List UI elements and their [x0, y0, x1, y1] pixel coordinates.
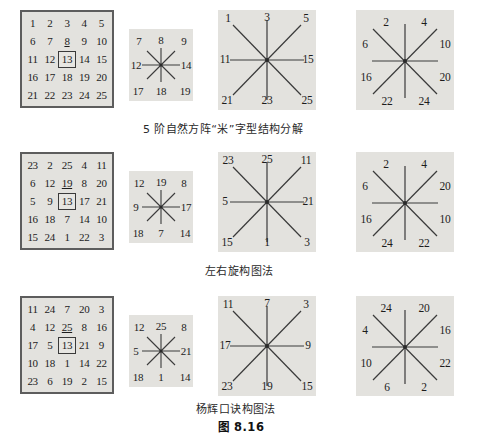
star-label-s: 18 — [156, 86, 167, 97]
square-cell: 20 — [93, 175, 110, 193]
star-diagram-right-rotate: 2 4 6 20 16 10 24 22 — [356, 152, 454, 252]
square-cell: 24 — [76, 86, 93, 104]
star-label-s-left: 22 — [381, 96, 392, 108]
star-label-nw: 1 — [225, 13, 231, 25]
star-label-e: 14 — [181, 60, 192, 71]
square-cell: 4 — [76, 157, 93, 175]
star-label-sw: 21 — [221, 95, 232, 107]
star-label-e: 16 — [439, 325, 450, 337]
star-label-ne: 8 — [181, 178, 186, 189]
star-diagram-small-yanghui: 12 25 8 5 21 18 1 14 — [129, 315, 193, 387]
square-cell: 4 — [76, 15, 93, 33]
square-cell: 8 — [76, 319, 93, 337]
star-label-ne: 9 — [181, 36, 186, 47]
square-cell: 10 — [93, 210, 110, 228]
star-label-se: 14 — [180, 228, 191, 239]
square-cell: 10 — [93, 33, 110, 51]
square-cell: 7 — [41, 33, 58, 51]
star-label-ne: 4 — [421, 17, 427, 29]
square-cell-center-highlight: 13 — [58, 193, 75, 211]
square-cell: 6 — [24, 33, 41, 51]
square-cell-underlined: 8 — [58, 33, 75, 51]
star-label-e: 15 — [302, 54, 313, 66]
star-diagram-mid-rotate: 23 25 11 5 21 15 1 3 — [218, 152, 316, 252]
square-cell: 3 — [93, 301, 110, 319]
square-cell: 1 — [58, 228, 75, 246]
star-diagram-mid-natural: 1 3 5 11 15 21 23 25 — [218, 10, 316, 110]
star-label-w: 6 — [362, 181, 368, 193]
magic-square-natural: 1 2 3 4 5 6 7 8 9 10 11 12 13 14 15 16 1… — [20, 10, 114, 108]
star-label-nw: 12 — [134, 178, 145, 189]
square-cell: 11 — [93, 157, 110, 175]
square-cell: 2 — [41, 15, 58, 33]
star-label-se: 3 — [304, 237, 310, 249]
square-cell: 2 — [76, 372, 93, 390]
square-cell: 5 — [93, 15, 110, 33]
square-cell: 23 — [24, 157, 41, 175]
square-cell: 12 — [41, 175, 58, 193]
square-cell: 14 — [76, 354, 93, 372]
star-label-e: 17 — [181, 202, 192, 213]
star-label-se: 22 — [439, 358, 450, 370]
star-diagram-small-rotate: 12 19 8 9 17 18 7 14 — [129, 171, 193, 243]
star-label-se: 19 — [180, 86, 191, 97]
square-cell: 4 — [24, 319, 41, 337]
square-cell: 12 — [41, 319, 58, 337]
star-label-sw: 23 — [221, 381, 232, 393]
star-label-n: 3 — [264, 12, 270, 24]
square-cell: 15 — [93, 372, 110, 390]
square-cell: 1 — [58, 354, 75, 372]
square-cell: 21 — [76, 337, 93, 355]
star-label-nw: 12 — [134, 322, 145, 333]
star-label-w: 12 — [131, 60, 142, 71]
square-cell: 22 — [41, 86, 58, 104]
star-label-ne: 5 — [303, 13, 309, 25]
star-label-ne: 11 — [301, 155, 312, 167]
star-label-s-right: 22 — [418, 238, 429, 250]
square-cell: 23 — [24, 372, 41, 390]
square-cell-center-highlight: 13 — [58, 51, 75, 69]
square-cell: 9 — [76, 33, 93, 51]
square-cell: 25 — [93, 86, 110, 104]
square-cell: 17 — [41, 68, 58, 86]
square-cell: 9 — [41, 193, 58, 211]
star-lines-icon — [356, 152, 454, 252]
star-label-se: 14 — [180, 372, 191, 383]
square-cell: 24 — [41, 228, 58, 246]
square-cell: 1 — [24, 15, 41, 33]
star-label-s-right: 2 — [421, 382, 427, 394]
magic-square-grid: 1 2 3 4 5 6 7 8 9 10 11 12 13 14 15 16 1… — [24, 15, 110, 104]
star-label-sw: 18 — [133, 372, 144, 383]
star-label-s-left: 24 — [381, 238, 392, 250]
square-cell: 11 — [24, 301, 41, 319]
star-label-s: 19 — [261, 381, 272, 393]
square-cell: 25 — [58, 157, 75, 175]
caption-rotate-method: 左右旋构图法 — [205, 262, 273, 278]
star-label-ne: 8 — [181, 322, 186, 333]
square-cell: 18 — [58, 68, 75, 86]
square-cell: 7 — [58, 210, 75, 228]
square-cell: 6 — [41, 372, 58, 390]
square-cell: 3 — [93, 228, 110, 246]
star-label-w: 9 — [133, 202, 138, 213]
star-label-nw: 23 — [222, 155, 233, 167]
star-label-ne: 4 — [421, 159, 427, 171]
square-cell-underlined: 19 — [58, 175, 75, 193]
magic-square-grid: 23 2 25 4 11 6 12 19 8 20 5 9 13 17 21 1… — [24, 157, 110, 246]
square-cell-center-highlight: 13 — [58, 337, 75, 355]
star-label-e: 9 — [305, 340, 311, 352]
magic-square-grid: 11 24 7 20 3 4 12 25 8 16 17 5 13 21 9 1… — [24, 301, 110, 390]
square-cell: 14 — [76, 51, 93, 69]
star-lines-icon — [356, 10, 454, 110]
star-label-e: 10 — [439, 39, 450, 51]
square-cell: 9 — [93, 337, 110, 355]
star-label-n: 25 — [156, 321, 167, 332]
figure-number-label: 图 8.16 — [218, 418, 264, 433]
square-cell: 18 — [41, 210, 58, 228]
star-label-w: 11 — [220, 54, 231, 66]
caption-natural-square: 5 阶自然方阵“米”字型结构分解 — [143, 120, 303, 136]
square-cell: 18 — [41, 354, 58, 372]
square-cell: 12 — [41, 51, 58, 69]
square-cell: 24 — [41, 301, 58, 319]
star-label-se: 20 — [439, 72, 450, 84]
